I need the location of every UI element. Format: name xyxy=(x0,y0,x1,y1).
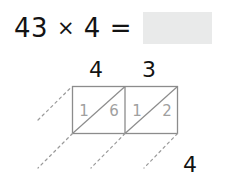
lattice-diagram: 4 3 4 1 6 1 2 xyxy=(0,55,226,176)
cell-1-ones-digit: 2 xyxy=(159,104,175,119)
left-factor: 43 xyxy=(14,15,48,41)
multiplication-operator-icon: × xyxy=(57,18,75,39)
cell-1-tens-digit: 1 xyxy=(129,104,145,119)
column-label-1: 3 xyxy=(134,59,164,81)
equals-sign: = xyxy=(110,15,132,41)
column-label-0: 4 xyxy=(81,59,111,81)
row-label-0: 4 xyxy=(183,154,197,176)
equation-row: 43 × 4 = xyxy=(14,8,212,48)
right-factor: 4 xyxy=(84,15,101,41)
cell-0-tens-digit: 1 xyxy=(76,104,92,119)
worksheet-canvas: 43 × 4 = xyxy=(0,0,226,176)
cell-0-ones-digit: 6 xyxy=(106,104,122,119)
diagonal-extension-lines xyxy=(38,87,178,169)
answer-input-box[interactable] xyxy=(143,12,212,44)
